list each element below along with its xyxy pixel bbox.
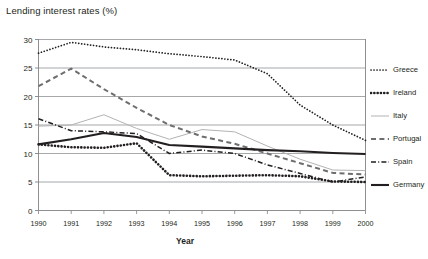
legend-item-portugal[interactable]: Portugal — [370, 127, 428, 150]
data-series — [39, 42, 366, 182]
legend-label: Germany — [393, 181, 424, 189]
x-tick-labels: 1990199119921993199419951996199719981999… — [31, 219, 374, 228]
legend-label: Greece — [393, 66, 418, 74]
gridlines — [39, 40, 366, 211]
y-tick-label: 20 — [24, 93, 33, 102]
legend-swatch-portugal — [370, 134, 390, 144]
series-line-ireland — [39, 143, 366, 182]
legend-label: Italy — [393, 112, 407, 120]
y-tick-label: 5 — [28, 178, 33, 187]
y-tick-labels: 051015202530 — [24, 36, 33, 216]
y-tick-label: 30 — [24, 36, 33, 45]
x-tick-label: 1996 — [227, 219, 243, 228]
x-tick-label: 1998 — [292, 219, 308, 228]
series-line-portugal — [39, 69, 366, 175]
legend-item-ireland[interactable]: Ireland — [370, 81, 428, 104]
legend-label: Ireland — [393, 89, 416, 97]
legend-swatch-ireland — [370, 88, 390, 98]
x-tick-label: 1997 — [259, 219, 275, 228]
legend-label: Portugal — [393, 135, 421, 143]
legend-swatch-germany — [370, 180, 390, 190]
tick-marks — [35, 40, 366, 215]
x-tick-label: 1993 — [129, 219, 145, 228]
legend-swatch-italy — [370, 111, 390, 121]
x-tick-label: 1995 — [194, 219, 210, 228]
x-axis-label: Year — [0, 236, 370, 246]
x-tick-label: 1999 — [325, 219, 341, 228]
chart-figure: Lending interest rates (%) 051015202530 … — [0, 0, 428, 259]
series-line-greece — [39, 42, 366, 140]
y-tick-label: 25 — [24, 64, 33, 73]
y-tick-label: 10 — [24, 150, 33, 159]
series-line-italy — [39, 115, 366, 171]
legend-item-germany[interactable]: Germany — [370, 173, 428, 196]
legend-swatch-spain — [370, 157, 390, 167]
x-tick-label: 1991 — [63, 219, 79, 228]
legend-item-spain[interactable]: Spain — [370, 150, 428, 173]
x-tick-label: 2000 — [358, 219, 374, 228]
legend-swatch-greece — [370, 65, 390, 75]
legend-item-greece[interactable]: Greece — [370, 58, 428, 81]
y-tick-label: 15 — [24, 121, 33, 130]
x-tick-label: 1990 — [31, 219, 47, 228]
legend-item-italy[interactable]: Italy — [370, 104, 428, 127]
legend-label: Spain — [393, 158, 412, 166]
series-line-spain — [39, 119, 366, 182]
x-tick-label: 1992 — [96, 219, 112, 228]
x-tick-label: 1994 — [161, 219, 177, 228]
line-chart-plot: 051015202530 199019911992199319941995199… — [0, 0, 428, 259]
chart-legend: GreeceIrelandItalyPortugalSpainGermany — [370, 58, 428, 196]
y-tick-label: 0 — [28, 207, 33, 216]
